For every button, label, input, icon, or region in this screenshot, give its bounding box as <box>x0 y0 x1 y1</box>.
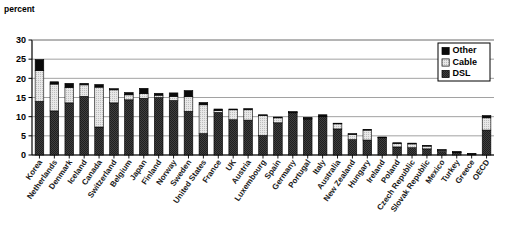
bar-segment-dsl[interactable] <box>244 120 253 155</box>
bar-segment-other[interactable] <box>333 123 342 124</box>
bar-segment-dsl[interactable] <box>408 148 417 155</box>
bar-segment-dsl[interactable] <box>378 137 387 155</box>
bar-segment-other[interactable] <box>482 116 491 118</box>
bar-segment-cable[interactable] <box>154 95 163 97</box>
bar-segment-dsl[interactable] <box>80 96 89 155</box>
bar-segment-dsl[interactable] <box>423 149 432 155</box>
bar-segment-cable[interactable] <box>139 94 148 99</box>
bar-segment-dsl[interactable] <box>154 98 163 156</box>
stacked-bar[interactable] <box>35 60 44 155</box>
bar-segment-other[interactable] <box>452 152 461 153</box>
bar-segment-dsl[interactable] <box>288 112 297 155</box>
bar-segment-dsl[interactable] <box>169 101 178 155</box>
bar-segment-dsl[interactable] <box>110 103 119 155</box>
bar-segment-dsl[interactable] <box>184 111 193 155</box>
bar-segment-cable[interactable] <box>95 87 104 127</box>
bar-segment-dsl[interactable] <box>363 140 372 155</box>
stacked-bar[interactable] <box>110 89 119 155</box>
bar-segment-dsl[interactable] <box>35 101 44 155</box>
bar-segment-other[interactable] <box>154 93 163 95</box>
bar-segment-dsl[interactable] <box>199 134 208 155</box>
bar-segment-dsl[interactable] <box>333 129 342 155</box>
stacked-bar[interactable] <box>229 109 238 155</box>
bar-segment-other[interactable] <box>229 109 238 110</box>
bar-segment-dsl[interactable] <box>65 103 74 155</box>
bar-segment-cable[interactable] <box>35 71 44 102</box>
bar-segment-other[interactable] <box>423 145 432 146</box>
bar-segment-cable[interactable] <box>393 144 402 147</box>
stacked-bar[interactable] <box>438 150 447 155</box>
bar-segment-other[interactable] <box>110 89 119 90</box>
bar-segment-cable[interactable] <box>333 124 342 129</box>
bar-segment-other[interactable] <box>408 143 417 144</box>
bar-segment-dsl[interactable] <box>482 130 491 155</box>
stacked-bar[interactable] <box>318 115 327 155</box>
bar-segment-other[interactable] <box>467 153 476 154</box>
stacked-bar[interactable] <box>467 153 476 155</box>
bar-segment-cable[interactable] <box>348 134 357 139</box>
bar-segment-other[interactable] <box>139 88 148 93</box>
stacked-bar[interactable] <box>348 134 357 155</box>
bar-segment-other[interactable] <box>169 93 178 96</box>
bar-segment-dsl[interactable] <box>139 98 148 155</box>
bar-segment-cable[interactable] <box>229 110 238 120</box>
stacked-bar[interactable] <box>378 137 387 155</box>
bar-segment-dsl[interactable] <box>259 135 268 155</box>
stacked-bar[interactable] <box>125 93 134 155</box>
bar-segment-other[interactable] <box>95 84 104 87</box>
bar-segment-dsl[interactable] <box>318 117 327 155</box>
bar-segment-cable[interactable] <box>199 105 208 134</box>
bar-segment-other[interactable] <box>303 117 312 118</box>
bar-segment-dsl[interactable] <box>348 140 357 155</box>
bar-segment-other[interactable] <box>184 91 193 97</box>
bar-segment-other[interactable] <box>244 109 253 110</box>
bar-segment-cable[interactable] <box>244 110 253 120</box>
bar-segment-other[interactable] <box>393 143 402 144</box>
bar-segment-other[interactable] <box>318 115 327 117</box>
stacked-bar[interactable] <box>65 83 74 155</box>
bar-segment-other[interactable] <box>438 150 447 151</box>
bar-segment-other[interactable] <box>259 115 268 116</box>
bar-segment-cable[interactable] <box>259 116 268 136</box>
stacked-bar[interactable] <box>184 91 193 155</box>
stacked-bar[interactable] <box>363 129 372 155</box>
bar-segment-cable[interactable] <box>408 144 417 148</box>
bar-segment-dsl[interactable] <box>393 147 402 155</box>
bar-segment-other[interactable] <box>378 137 387 138</box>
bar-segment-other[interactable] <box>363 129 372 130</box>
bar-segment-other[interactable] <box>50 82 59 84</box>
stacked-bar[interactable] <box>393 143 402 155</box>
stacked-bar[interactable] <box>423 145 432 155</box>
bar-segment-cable[interactable] <box>184 97 193 112</box>
bar-segment-cable[interactable] <box>482 118 491 130</box>
bar-segment-dsl[interactable] <box>303 119 312 155</box>
bar-segment-cable[interactable] <box>50 84 59 111</box>
bar-segment-other[interactable] <box>348 134 357 135</box>
stacked-bar[interactable] <box>244 109 253 155</box>
bar-segment-dsl[interactable] <box>438 152 447 155</box>
stacked-bar[interactable] <box>154 93 163 155</box>
bar-segment-cable[interactable] <box>65 88 74 103</box>
bar-segment-other[interactable] <box>288 112 297 113</box>
stacked-bar[interactable] <box>95 84 104 155</box>
stacked-bar[interactable] <box>139 88 148 155</box>
bar-segment-other[interactable] <box>125 93 134 95</box>
bar-segment-dsl[interactable] <box>95 127 104 155</box>
bar-segment-dsl[interactable] <box>125 100 134 155</box>
bar-segment-dsl[interactable] <box>214 112 223 155</box>
bar-segment-cable[interactable] <box>110 90 119 103</box>
bar-segment-cable[interactable] <box>169 96 178 100</box>
bar-segment-cable[interactable] <box>274 118 283 123</box>
bar-segment-other[interactable] <box>214 109 223 111</box>
bar-segment-dsl[interactable] <box>274 123 283 155</box>
bar-segment-other[interactable] <box>80 83 89 85</box>
stacked-bar[interactable] <box>482 116 491 155</box>
bar-segment-cable[interactable] <box>363 130 372 140</box>
stacked-bar[interactable] <box>288 112 297 155</box>
stacked-bar[interactable] <box>199 102 208 155</box>
bar-segment-dsl[interactable] <box>50 111 59 155</box>
stacked-bar[interactable] <box>333 123 342 155</box>
bar-segment-cable[interactable] <box>80 85 89 97</box>
stacked-bar[interactable] <box>50 82 59 155</box>
bar-segment-other[interactable] <box>199 102 208 104</box>
